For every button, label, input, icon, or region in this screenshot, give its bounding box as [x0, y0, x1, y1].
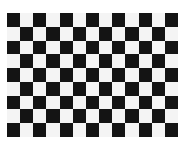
dark-square — [152, 82, 165, 96]
dark-square — [139, 68, 152, 82]
dark-square — [165, 123, 178, 137]
dark-square — [99, 109, 112, 123]
light-square — [99, 123, 112, 137]
dark-square — [152, 109, 165, 123]
dark-square — [7, 41, 20, 55]
light-square — [139, 54, 152, 68]
light-square — [7, 82, 20, 96]
light-square — [7, 109, 20, 123]
dark-square — [112, 96, 125, 110]
light-square — [46, 68, 59, 82]
dark-square — [86, 13, 99, 27]
dark-square — [99, 54, 112, 68]
dark-square — [73, 54, 86, 68]
light-square — [112, 27, 125, 41]
light-square — [20, 123, 33, 137]
dark-square — [112, 41, 125, 55]
dark-square — [125, 54, 138, 68]
dark-square — [60, 96, 73, 110]
dark-square — [125, 82, 138, 96]
light-square — [125, 13, 138, 27]
dark-square — [46, 54, 59, 68]
dark-square — [112, 68, 125, 82]
light-square — [139, 109, 152, 123]
light-square — [60, 109, 73, 123]
light-square — [86, 54, 99, 68]
dark-square — [33, 96, 46, 110]
dark-square — [46, 27, 59, 41]
dark-square — [99, 27, 112, 41]
light-square — [7, 27, 20, 41]
dark-square — [86, 68, 99, 82]
dark-square — [86, 41, 99, 55]
dark-square — [7, 123, 20, 137]
dark-square — [60, 123, 73, 137]
light-square — [125, 96, 138, 110]
dark-square — [20, 54, 33, 68]
dark-square — [165, 41, 178, 55]
dark-square — [139, 96, 152, 110]
dark-square — [73, 82, 86, 96]
dark-square — [7, 68, 20, 82]
dark-square — [165, 68, 178, 82]
dark-square — [20, 109, 33, 123]
light-square — [152, 68, 165, 82]
light-square — [20, 68, 33, 82]
light-square — [33, 54, 46, 68]
dark-square — [112, 123, 125, 137]
checkerboard-pattern — [7, 13, 178, 137]
dark-square — [46, 109, 59, 123]
light-square — [46, 13, 59, 27]
dark-square — [7, 96, 20, 110]
dark-square — [152, 27, 165, 41]
dark-square — [60, 41, 73, 55]
light-square — [60, 54, 73, 68]
light-square — [99, 68, 112, 82]
light-square — [60, 82, 73, 96]
dark-square — [86, 123, 99, 137]
light-square — [73, 13, 86, 27]
light-square — [73, 41, 86, 55]
light-square — [33, 27, 46, 41]
dark-square — [7, 13, 20, 27]
dark-square — [33, 123, 46, 137]
light-square — [125, 123, 138, 137]
dark-square — [86, 96, 99, 110]
dark-square — [46, 82, 59, 96]
light-square — [139, 27, 152, 41]
light-square — [165, 27, 178, 41]
light-square — [112, 54, 125, 68]
light-square — [86, 27, 99, 41]
light-square — [60, 27, 73, 41]
dark-square — [139, 13, 152, 27]
dark-square — [152, 54, 165, 68]
dark-square — [33, 41, 46, 55]
dark-square — [112, 13, 125, 27]
dark-square — [125, 27, 138, 41]
light-square — [152, 123, 165, 137]
dark-square — [60, 68, 73, 82]
dark-square — [125, 109, 138, 123]
dark-square — [73, 27, 86, 41]
light-square — [20, 13, 33, 27]
dark-square — [33, 68, 46, 82]
light-square — [73, 123, 86, 137]
dark-square — [99, 82, 112, 96]
light-square — [33, 82, 46, 96]
light-square — [112, 82, 125, 96]
light-square — [46, 41, 59, 55]
dark-square — [165, 13, 178, 27]
light-square — [165, 54, 178, 68]
dark-square — [139, 41, 152, 55]
light-square — [152, 41, 165, 55]
dark-square — [60, 13, 73, 27]
light-square — [7, 54, 20, 68]
dark-square — [20, 82, 33, 96]
light-square — [99, 41, 112, 55]
light-square — [20, 96, 33, 110]
dark-square — [33, 13, 46, 27]
light-square — [46, 123, 59, 137]
light-square — [86, 82, 99, 96]
light-square — [46, 96, 59, 110]
light-square — [86, 109, 99, 123]
